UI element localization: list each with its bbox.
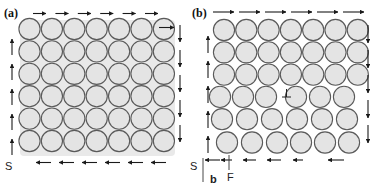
atom <box>86 63 107 84</box>
atom <box>255 86 276 107</box>
atom <box>109 130 130 151</box>
atom <box>325 42 346 63</box>
atom <box>153 41 174 62</box>
atom <box>325 19 346 40</box>
atom <box>19 18 40 39</box>
atom <box>64 18 85 39</box>
atom <box>109 63 130 84</box>
panel-b-start-label: S <box>190 160 197 172</box>
atom <box>41 130 62 151</box>
atom <box>131 86 152 107</box>
panel-b-finish-label: F <box>227 171 234 183</box>
atom <box>19 130 40 151</box>
atom <box>303 19 324 40</box>
atom <box>290 132 311 153</box>
atom <box>309 86 330 107</box>
atom <box>86 86 107 107</box>
atom <box>41 18 62 39</box>
atom <box>236 64 257 85</box>
atom <box>325 64 346 85</box>
atom <box>131 63 152 84</box>
atom <box>347 64 368 85</box>
atom <box>109 108 130 129</box>
atom <box>153 130 174 151</box>
atom <box>131 41 152 62</box>
atom <box>336 109 357 130</box>
atom <box>19 63 40 84</box>
atom <box>258 19 279 40</box>
atom <box>236 19 257 40</box>
atom <box>261 109 282 130</box>
atom <box>213 42 234 63</box>
atom <box>338 132 359 153</box>
atom <box>280 19 301 40</box>
panel-b-atoms <box>209 19 368 153</box>
atom <box>241 132 262 153</box>
atom <box>153 18 174 39</box>
atom <box>131 18 152 39</box>
atom <box>109 86 130 107</box>
atom <box>86 130 107 151</box>
atom <box>258 64 279 85</box>
atom <box>213 19 234 40</box>
panel-b: (b) S F b <box>190 6 368 185</box>
atom <box>131 108 152 129</box>
atom <box>213 64 234 85</box>
atom <box>286 109 307 130</box>
atom <box>216 132 237 153</box>
atom <box>236 42 257 63</box>
atom <box>41 63 62 84</box>
atom <box>153 86 174 107</box>
atom <box>333 86 354 107</box>
atom <box>86 108 107 129</box>
atom <box>347 42 368 63</box>
atom <box>109 18 130 39</box>
panel-a-start-label: S <box>5 160 12 172</box>
burgers-vector-label: b <box>210 173 217 185</box>
atom <box>109 41 130 62</box>
atom <box>303 42 324 63</box>
atom <box>131 130 152 151</box>
atom <box>303 64 324 85</box>
atom <box>311 109 332 130</box>
atom <box>236 109 257 130</box>
atom <box>258 42 279 63</box>
atom <box>41 86 62 107</box>
atom <box>64 130 85 151</box>
atom <box>280 64 301 85</box>
atom <box>19 108 40 129</box>
atom <box>64 41 85 62</box>
burgers-circuit-figure: (a) S (b) S F b <box>0 0 376 188</box>
atom <box>314 132 335 153</box>
atom <box>41 41 62 62</box>
panel-b-label: (b) <box>192 6 207 20</box>
atom <box>280 42 301 63</box>
atom <box>19 41 40 62</box>
atom <box>209 86 230 107</box>
atom <box>232 86 253 107</box>
atom <box>86 41 107 62</box>
atom <box>211 109 232 130</box>
atom <box>266 132 287 153</box>
atom <box>19 86 40 107</box>
atom <box>64 86 85 107</box>
panel-a: (a) S <box>4 6 180 172</box>
atom <box>64 108 85 129</box>
atom <box>347 19 368 40</box>
atom <box>153 63 174 84</box>
atom <box>86 18 107 39</box>
atom <box>64 63 85 84</box>
atom <box>153 108 174 129</box>
panel-a-label: (a) <box>4 6 18 20</box>
atom <box>41 108 62 129</box>
